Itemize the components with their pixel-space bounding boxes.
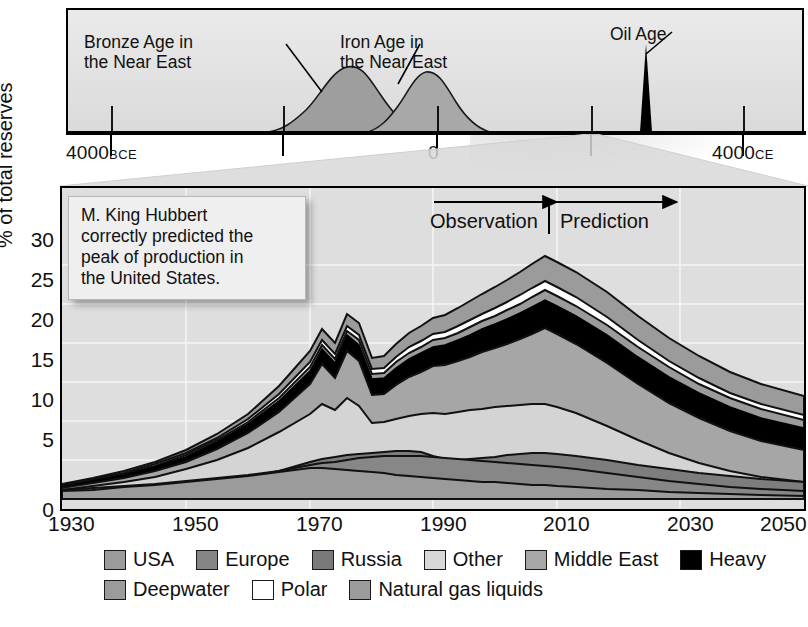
x-tick-2030: 2030	[667, 512, 714, 536]
legend-swatch-usa	[104, 550, 126, 570]
zoom-funnel	[60, 134, 808, 188]
legend-label-other: Other	[453, 548, 503, 571]
x-tick-1950: 1950	[172, 512, 219, 536]
y-tick-5: 5	[14, 428, 54, 452]
legend-item-middle-east[interactable]: Middle East	[525, 548, 681, 571]
x-tick-2010: 2010	[543, 512, 590, 536]
x-tick-1990: 1990	[420, 512, 467, 536]
legend-item-russia[interactable]: Russia	[312, 548, 424, 571]
observation-prediction-divider	[548, 204, 550, 234]
legend-swatch-russia	[312, 550, 334, 570]
prediction-label: Prediction	[560, 210, 649, 233]
legend-label-natural-gas-liquids: Natural gas liquids	[378, 578, 543, 601]
legend-row-2: Deepwater Polar Natural gas liquids	[104, 578, 804, 601]
legend-label-europe: Europe	[225, 548, 290, 571]
legend-swatch-natural-gas-liquids	[349, 580, 371, 600]
legend-item-deepwater[interactable]: Deepwater	[104, 578, 252, 601]
x-tick-1930: 1930	[48, 512, 95, 536]
legend-item-other[interactable]: Other	[424, 548, 525, 571]
legend-swatch-deepwater	[104, 580, 126, 600]
y-tick-30: 30	[14, 228, 54, 252]
legend-label-heavy: Heavy	[709, 548, 766, 571]
y-tick-10: 10	[14, 388, 54, 412]
chart-legend: USA Europe Russia Other Middle East Heav…	[104, 548, 804, 608]
timeline-panel: Bronze Age in the Near East Iron Age in …	[66, 8, 804, 134]
legend-item-europe[interactable]: Europe	[196, 548, 312, 571]
legend-label-usa: USA	[133, 548, 174, 571]
legend-label-polar: Polar	[281, 578, 328, 601]
hubbert-annotation: M. King Hubbert correctly predicted the …	[68, 196, 306, 300]
legend-label-russia: Russia	[341, 548, 402, 571]
x-tick-1970: 1970	[296, 512, 343, 536]
legend-item-usa[interactable]: USA	[104, 548, 196, 571]
y-tick-15: 15	[14, 348, 54, 372]
legend-swatch-polar	[252, 580, 274, 600]
observation-prediction-annotation: Observation Prediction	[398, 190, 698, 236]
legend-swatch-europe	[196, 550, 218, 570]
legend-swatch-heavy	[680, 550, 702, 570]
oil-age-note: Oil Age	[610, 24, 666, 44]
legend-swatch-other	[424, 550, 446, 570]
legend-row-1: USA Europe Russia Other Middle East Heav…	[104, 548, 804, 571]
legend-swatch-middle-east	[525, 550, 547, 570]
legend-item-polar[interactable]: Polar	[252, 578, 350, 601]
observation-label: Observation	[430, 210, 538, 233]
y-tick-25: 25	[14, 268, 54, 292]
legend-label-middle-east: Middle East	[554, 548, 659, 571]
bronze-age-note: Bronze Age in the Near East	[84, 32, 193, 72]
legend-label-deepwater: Deepwater	[133, 578, 230, 601]
y-axis-title: % of total reserves	[0, 82, 17, 248]
y-tick-20: 20	[14, 308, 54, 332]
timeline-svg	[68, 10, 804, 134]
legend-item-natural-gas-liquids[interactable]: Natural gas liquids	[349, 578, 565, 601]
x-tick-2050: 2050	[760, 512, 807, 536]
legend-item-heavy[interactable]: Heavy	[680, 548, 788, 571]
iron-age-note: Iron Age in the Near East	[340, 32, 447, 72]
